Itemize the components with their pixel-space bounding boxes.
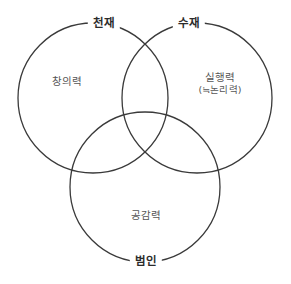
venn-set-label-ordinary-person: 범인 (130, 254, 162, 271)
venn-circle-genius (18, 23, 168, 173)
venn-circle-top-student (122, 23, 272, 173)
venn-set-label-genius: 천재 (88, 16, 120, 33)
venn-diagram: 천재 수재 범인 창의력 실행력 (≒논리력) 공감력 (0, 0, 291, 284)
venn-region-label-empathy: 공감력 (131, 209, 161, 221)
venn-region-label-creativity-text: 창의력 (52, 75, 82, 87)
venn-circles-canvas (0, 0, 291, 284)
venn-region-label-execution-subtext: (≒논리력) (199, 84, 242, 95)
venn-region-label-empathy-text: 공감력 (131, 209, 161, 221)
venn-circle-ordinary-person (70, 112, 220, 262)
venn-set-label-top-student: 수재 (173, 16, 205, 33)
venn-region-label-execution-text: 실행력 (205, 71, 235, 83)
venn-region-label-execution: 실행력 (≒논리력) (199, 71, 242, 96)
venn-region-label-creativity: 창의력 (52, 75, 82, 87)
